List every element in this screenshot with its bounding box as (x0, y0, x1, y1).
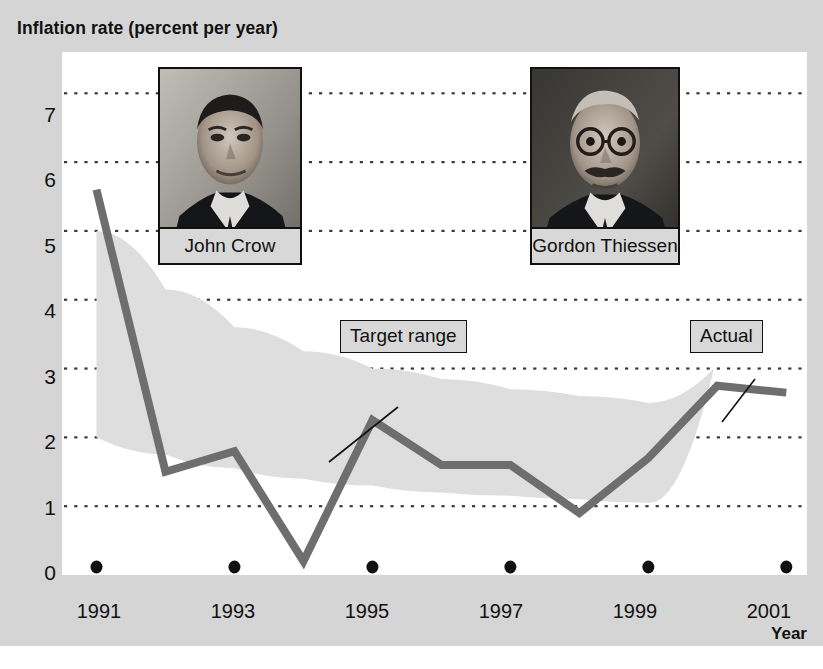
photo-card-john-crow: John Crow (158, 67, 302, 265)
y-tick-4: 4 (22, 299, 56, 323)
y-tick-5: 5 (22, 234, 56, 258)
y-tick-1: 1 (22, 496, 56, 520)
x-axis-title: Year (771, 624, 807, 644)
y-tick-7: 7 (22, 103, 56, 127)
x-tick-1991: 1991 (54, 600, 144, 623)
x-tick-1999: 1999 (590, 600, 680, 623)
photo-card-gordon-thiessen: Gordon Thiessen (530, 67, 680, 265)
y-tick-0: 0 (22, 561, 56, 585)
x-tick-1993: 1993 (188, 600, 278, 623)
x-axis-markers (90, 561, 792, 574)
y-tick-2: 2 (22, 430, 56, 454)
x-tick-2001: 2001 (724, 600, 814, 623)
y-tick-6: 6 (22, 168, 56, 192)
x-tick-1997: 1997 (456, 600, 546, 623)
callout-actual: Actual (690, 320, 763, 353)
callout-target-range: Target range (340, 320, 467, 353)
photo-caption-gordon-thiessen: Gordon Thiessen (532, 227, 678, 263)
photo-caption-john-crow: John Crow (160, 227, 300, 263)
y-tick-3: 3 (22, 365, 56, 389)
x-tick-1995: 1995 (322, 600, 412, 623)
chart-title: Inflation rate (percent per year) (17, 18, 278, 39)
inflation-rate-chart-figure: Inflation rate (percent per year) 7 6 5 … (0, 0, 823, 669)
